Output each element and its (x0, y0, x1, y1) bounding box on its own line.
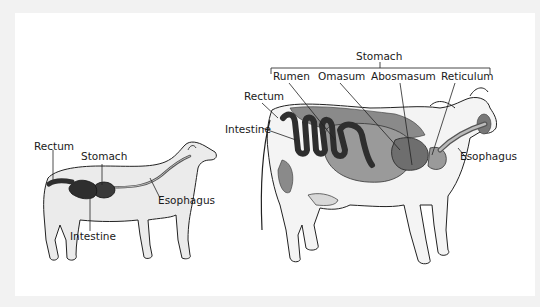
cow-label-omasum: Omasum (318, 70, 365, 82)
dog-label-rectum: Rectum (34, 140, 74, 152)
cow-reticulum (428, 147, 446, 169)
cow-illustration (261, 62, 496, 264)
dog-label-stomach: Stomach (81, 150, 127, 162)
dog-label-esophagus: Esophagus (158, 194, 215, 206)
dog-label-intestine: Intestine (70, 230, 116, 242)
digestive-system-diagram: Rectum Stomach Esophagus Intestine (0, 0, 540, 307)
cow-label-intestine: Intestine (225, 123, 271, 135)
cow-label-stomach: Stomach (356, 50, 402, 62)
cow-label-rectum: Rectum (244, 90, 284, 102)
cow-label-esophagus: Esophagus (460, 150, 517, 162)
cow-label-abosmasum: Abosmasum (371, 70, 436, 82)
cow-label-reticulum: Reticulum (441, 70, 494, 82)
cow-label-rumen: Rumen (273, 70, 310, 82)
